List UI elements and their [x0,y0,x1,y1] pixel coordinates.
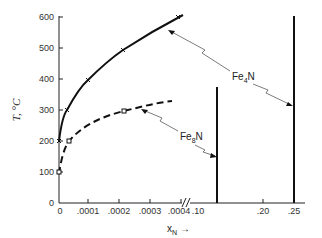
chart: 600 500 400 300 200 100 0 0 .0001 .0002 … [0,0,322,238]
x-ticks [88,199,263,203]
fe4n-leader-left [170,31,230,71]
x-tick-0003: .0003 [139,206,162,216]
fe4n-label: Fe4N [232,71,255,84]
x-tick-0002: .0002 [108,206,131,216]
y-tick-100: 100 [39,167,54,177]
y-tick-200: 200 [39,136,54,146]
x-tick-25: .25 [288,206,301,216]
y-axis-label: T, °C [10,98,22,121]
y-tick-600: 600 [39,12,54,22]
fe4n-leader-right [253,84,291,105]
fe4n-solvus-curve [59,15,183,141]
x-markers [57,15,180,143]
x-tick-20: .20 [257,206,270,216]
x-axis-label: xN→ [167,223,190,236]
y-tick-0: 0 [49,198,54,208]
o-markers [57,109,126,174]
y-tick-400: 400 [39,74,54,84]
x-tick-0: 0 [57,206,62,216]
x-tick-0004: .0004 [168,206,191,216]
y-ticks [59,17,63,172]
y-tick-500: 500 [39,43,54,53]
y-tick-300: 300 [39,105,54,115]
x-tick-0001: .0001 [77,206,100,216]
fe8n-label: Fe8N [180,131,203,144]
x-tick-10: .10 [192,206,205,216]
fe8n-solvus-curve [59,101,172,174]
chart-svg: 600 500 400 300 200 100 0 0 .0001 .0002 … [0,0,322,238]
fe8n-leader-left [143,110,178,131]
